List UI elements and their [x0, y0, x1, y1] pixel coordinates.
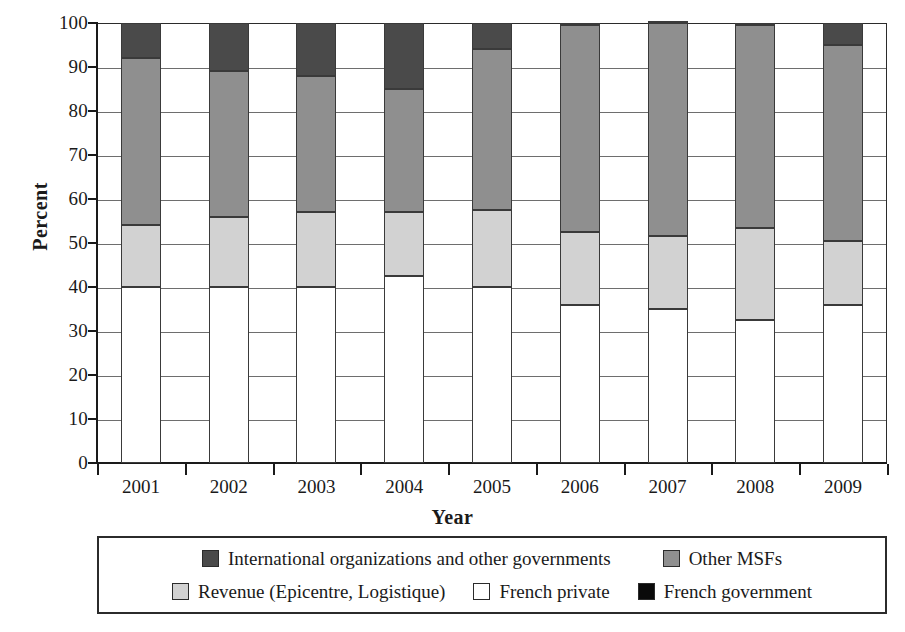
bars-layer: [97, 23, 887, 463]
stacked-bar-chart: Percent 0102030405060708090100 200120022…: [0, 0, 905, 632]
y-tick-label: 80: [30, 101, 88, 120]
y-tick-label: 20: [30, 365, 88, 384]
y-tick-mark: [88, 66, 98, 68]
y-tick-label: 100: [30, 13, 88, 32]
x-tick-mark: [536, 464, 538, 475]
bar-segment: [209, 217, 249, 287]
legend-swatch-icon: [172, 583, 189, 600]
legend-row: Revenue (Epicentre, Logistique)French pr…: [99, 575, 885, 608]
bar-segment: [472, 210, 512, 287]
bar-segment: [121, 225, 161, 287]
bar-segment: [296, 287, 336, 463]
bar-2007: [648, 23, 688, 463]
bar-segment: [296, 23, 336, 76]
x-tick-label: 2004: [364, 477, 444, 497]
legend-swatch-icon: [473, 583, 490, 600]
y-tick-mark: [88, 154, 98, 156]
legend-label: French private: [499, 582, 609, 602]
legend-label: Revenue (Epicentre, Logistique): [198, 582, 445, 602]
legend-label: French government: [664, 582, 812, 602]
x-tick-mark: [97, 464, 99, 475]
y-tick-mark: [88, 198, 98, 200]
bar-segment: [735, 23, 775, 25]
x-tick-mark: [711, 464, 713, 475]
legend-item[interactable]: French government: [638, 582, 812, 602]
bar-segment: [472, 287, 512, 463]
bar-2009: [823, 23, 863, 463]
bar-2004: [384, 23, 424, 463]
bar-segment: [121, 58, 161, 225]
bar-segment: [735, 25, 775, 227]
bar-segment: [209, 71, 249, 216]
legend-swatch-icon: [202, 550, 219, 567]
y-tick-mark: [88, 286, 98, 288]
x-tick-label: 2003: [276, 477, 356, 497]
bar-2008: [735, 23, 775, 463]
legend-label: Other MSFs: [689, 549, 782, 569]
legend-item[interactable]: Other MSFs: [663, 549, 782, 569]
y-tick-label: 10: [30, 409, 88, 428]
bar-segment: [472, 23, 512, 49]
legend-swatch-icon: [638, 583, 655, 600]
x-tick-label: 2007: [628, 477, 708, 497]
y-tick-mark: [88, 22, 98, 24]
bar-segment: [296, 212, 336, 287]
y-tick-label: 90: [30, 57, 88, 76]
x-tick-mark: [185, 464, 187, 475]
y-tick-label: 30: [30, 321, 88, 340]
x-tick-mark: [624, 464, 626, 475]
x-tick-mark: [448, 464, 450, 475]
bar-segment: [384, 23, 424, 89]
y-tick-label: 60: [30, 189, 88, 208]
bar-segment: [560, 23, 600, 25]
x-tick-label: 2002: [189, 477, 269, 497]
bar-segment: [121, 287, 161, 463]
legend-item[interactable]: French private: [473, 582, 609, 602]
bar-segment: [209, 23, 249, 71]
bar-segment: [823, 45, 863, 241]
x-tick-label: 2009: [803, 477, 883, 497]
bar-segment: [472, 49, 512, 210]
x-tick-label: 2005: [452, 477, 532, 497]
legend-item[interactable]: International organizations and other go…: [202, 549, 611, 569]
legend-label: International organizations and other go…: [228, 549, 611, 569]
bar-segment: [648, 23, 688, 236]
bar-segment: [121, 23, 161, 58]
bar-segment: [560, 232, 600, 305]
y-axis: 0102030405060708090100: [0, 23, 88, 463]
bar-2001: [121, 23, 161, 463]
x-tick-label: 2008: [715, 477, 795, 497]
y-tick-mark: [88, 374, 98, 376]
y-tick-label: 40: [30, 277, 88, 296]
x-tick-label: 2001: [101, 477, 181, 497]
x-tick-mark: [360, 464, 362, 475]
x-tick-mark: [799, 464, 801, 475]
bar-2005: [472, 23, 512, 463]
bar-segment: [823, 23, 863, 45]
legend-row: International organizations and other go…: [99, 542, 885, 575]
y-tick-mark: [88, 418, 98, 420]
legend-item[interactable]: Revenue (Epicentre, Logistique): [172, 582, 445, 602]
x-tick-mark: [273, 464, 275, 475]
y-tick-label: 70: [30, 145, 88, 164]
bar-segment: [384, 89, 424, 212]
bar-segment: [296, 76, 336, 212]
bar-segment: [823, 241, 863, 305]
legend-swatch-icon: [663, 550, 680, 567]
y-tick-mark: [88, 110, 98, 112]
x-tick-mark: [887, 464, 889, 475]
bar-2002: [209, 23, 249, 463]
y-tick-label: 0: [30, 453, 88, 472]
bar-segment: [384, 276, 424, 463]
bar-2003: [296, 23, 336, 463]
bar-segment: [560, 305, 600, 463]
bar-segment: [735, 228, 775, 320]
bar-segment: [648, 21, 688, 23]
bar-segment: [735, 320, 775, 463]
y-tick-mark: [88, 242, 98, 244]
bar-segment: [823, 305, 863, 463]
bar-segment: [648, 236, 688, 309]
bar-2006: [560, 23, 600, 463]
bar-segment: [560, 25, 600, 232]
x-tick-label: 2006: [540, 477, 620, 497]
